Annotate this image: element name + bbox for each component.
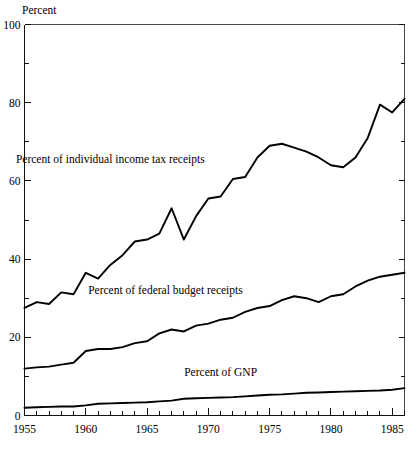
- axis-ticks: [25, 25, 405, 416]
- series-line-2: [25, 388, 405, 408]
- y-tick-label: 100: [3, 19, 21, 31]
- line-chart: 020406080100 195519601965197019751980198…: [0, 0, 411, 449]
- plot-frame: [25, 25, 405, 416]
- y-tick-label: 40: [9, 253, 21, 265]
- x-tick-label: 1975: [258, 423, 281, 435]
- series-line-0: [25, 99, 405, 308]
- series-label-0: Percent of individual income tax receipt…: [16, 153, 205, 166]
- series-label-2: Percent of GNP: [184, 366, 257, 378]
- x-tick-label: 1985: [381, 423, 404, 435]
- x-tick-label: 1980: [319, 423, 342, 435]
- y-axis-tick-labels: 020406080100: [3, 19, 21, 422]
- y-tick-label: 60: [9, 175, 21, 187]
- figure-container: 020406080100 195519601965197019751980198…: [0, 0, 411, 449]
- x-axis-tick-labels: 1955196019651970197519801985: [13, 423, 404, 435]
- y-tick-label: 0: [15, 410, 21, 422]
- y-tick-label: 20: [9, 331, 21, 343]
- x-tick-label: 1965: [136, 423, 159, 435]
- series-annotations: Percent of individual income tax receipt…: [16, 153, 257, 378]
- data-series-group: [25, 99, 405, 408]
- y-tick-label: 80: [9, 97, 21, 109]
- x-tick-label: 1970: [197, 423, 220, 435]
- y-axis-title: Percent: [22, 4, 57, 16]
- x-tick-label: 1960: [74, 423, 97, 435]
- x-tick-label: 1955: [13, 423, 36, 435]
- series-label-1: Percent of federal budget receipts: [88, 284, 243, 297]
